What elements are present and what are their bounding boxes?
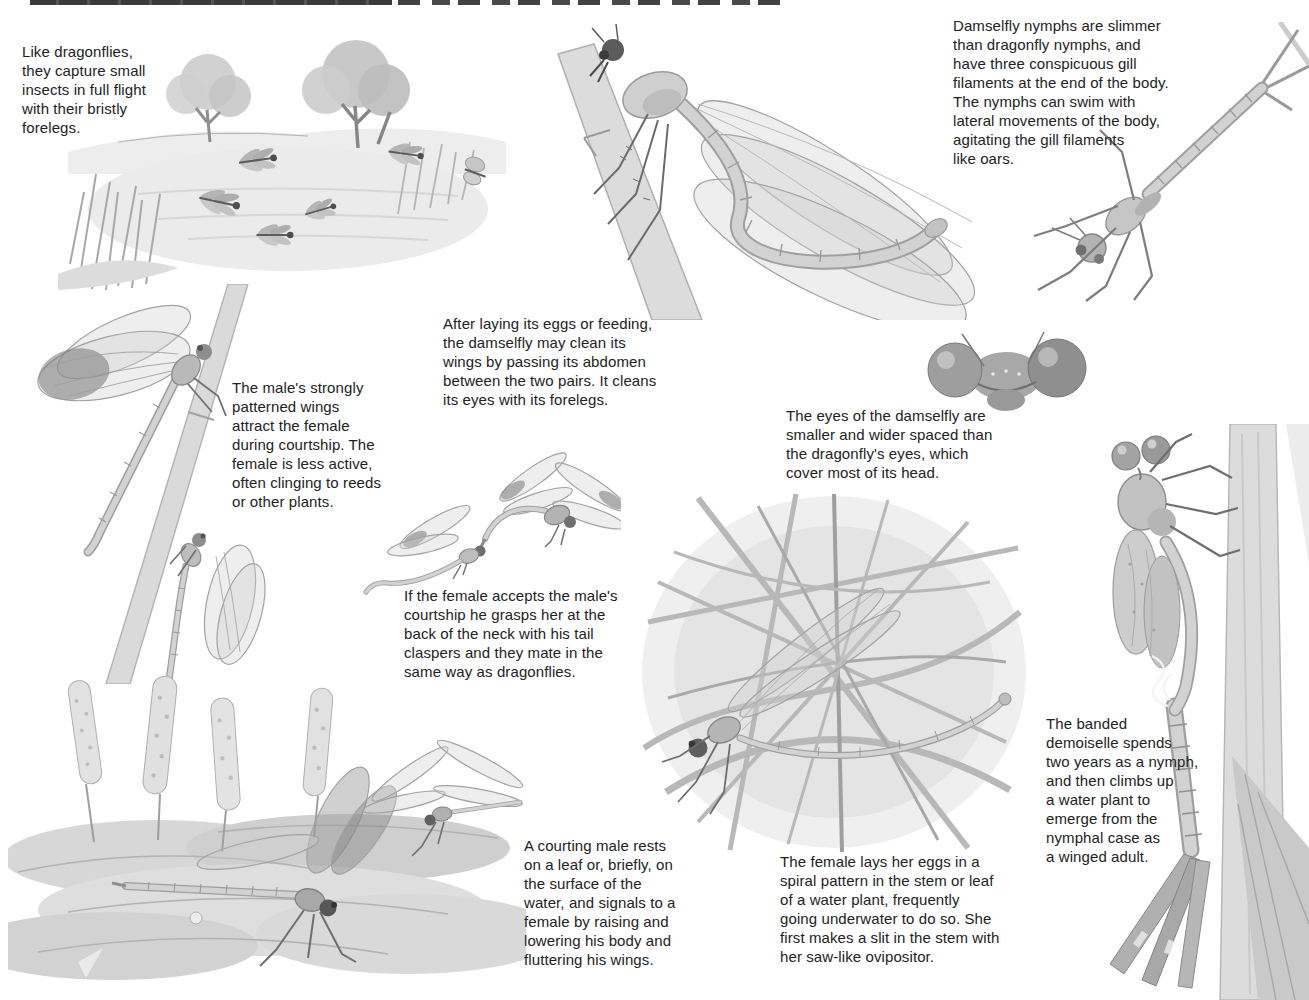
caption-male-wings: The male's strongly patterned wings attr… [232, 378, 381, 511]
caption-courting-male: A courting male rests on a leaf or, brie… [524, 836, 676, 969]
head-closeup-illustration [922, 328, 1090, 414]
emerging-adult [1112, 434, 1240, 710]
caption-cleaning: After laying its eggs or feeding, the da… [443, 314, 656, 409]
water-droplet [190, 912, 202, 924]
water-scene-illustration [8, 662, 526, 996]
caption-eyes: The eyes of the damselfly are smaller an… [786, 406, 992, 482]
cropped-header-band [30, 0, 392, 5]
book-page: Like dragonflies, they capture small ins… [0, 0, 1309, 1000]
caption-forelegs: Like dragonflies, they capture small ins… [22, 42, 146, 137]
tree-left [166, 54, 251, 142]
emergence-illustration [1080, 424, 1309, 1000]
gill-filaments [1262, 30, 1309, 110]
caption-egg-laying: The female lays her eggs in a spiral pat… [780, 852, 999, 966]
tandem-pair-illustration [363, 443, 621, 595]
female-wings [386, 499, 474, 560]
caption-banded-demoiselle: The banded demoiselle spends two years a… [1046, 714, 1198, 866]
caption-nymphs: Damselfly nymphs are slimmer than dragon… [953, 16, 1169, 168]
male-head [564, 516, 576, 528]
ovipositor-tip [999, 693, 1011, 705]
caption-mating: If the female accepts the male's courtsh… [404, 586, 618, 681]
mouthparts [987, 389, 1025, 411]
cropped-header-band-right [398, 0, 790, 5]
male-banded-wings [31, 291, 199, 414]
cleaning-damselfly-illustration [500, 10, 980, 320]
egg-laying-scene-illustration [638, 492, 1026, 854]
female [169, 533, 275, 680]
head [1052, 218, 1106, 264]
